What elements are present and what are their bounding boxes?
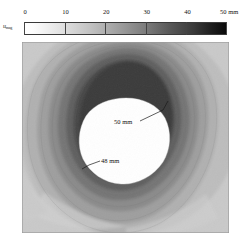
colorbar-tick-10: [65, 22, 66, 35]
colorbar-ticklabel-50: 50 mm: [220, 9, 238, 16]
colorbar-ticklabel-30: 30: [144, 9, 151, 16]
colorbar-ticklabel-20: 20: [103, 9, 110, 16]
colorbar: umag 0 10 20 30 40 50 mm: [0, 0, 251, 40]
colorbar-tick-20: [105, 22, 106, 35]
colorbar-tick-30: [146, 22, 147, 35]
annotation-inner-dimension: 50 mm: [114, 119, 132, 126]
colorbar-label-subscript: mag: [6, 25, 12, 30]
contour-figure: umag 0 10 20 30 40 50 mm: [0, 0, 251, 250]
colorbar-ticklabel-10: 10: [62, 9, 69, 16]
colorbar-ticklabel-0: 0: [23, 9, 26, 16]
colorbar-tick-0: [24, 22, 25, 35]
colorbar-tick-40: [186, 22, 187, 35]
colorbar-tick-50: [226, 22, 227, 35]
contour-field: [22, 42, 229, 233]
colorbar-ticklabel-40: 40: [184, 9, 191, 16]
contour-plot-area: [22, 42, 229, 233]
colorbar-gradient: [24, 22, 227, 35]
colorbar-axis-label: umag: [3, 23, 12, 30]
annotation-outer-dimension: 48 mm: [101, 158, 119, 165]
